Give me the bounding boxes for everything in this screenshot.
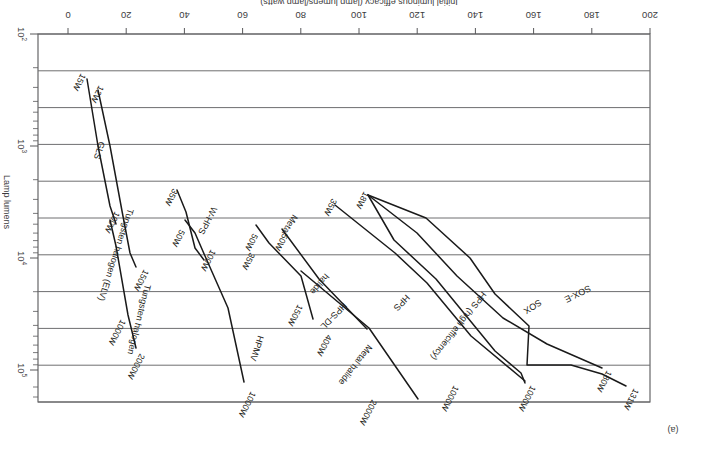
ytick-label-20: 20 <box>121 10 132 21</box>
ytick-label-100: 100 <box>351 10 367 21</box>
figure-page: 200 180 160 140 120 100 80 60 40 20 0 In… <box>0 0 717 461</box>
wattage-1000w-hps: 1000W <box>439 384 461 414</box>
wattage-35w-w-hps: 35W <box>163 187 181 208</box>
wattage-1000w-hpmv: 1000W <box>236 390 258 420</box>
label-sox: SOX <box>522 297 543 316</box>
label-hps-high-efficiency: HPS (high efficiency) <box>429 290 489 362</box>
label-hps-dl: HPS-DL <box>319 301 349 332</box>
curve-sox <box>368 195 602 368</box>
y-axis-title: Initial luminous efficacy (lamp lumens/l… <box>260 0 457 7</box>
efficacy-vs-lumens-chart: 200 180 160 140 120 100 80 60 40 20 0 In… <box>0 0 717 461</box>
series-name-labels: SOX-E SOX HPS (high efficiency) HPS Meta… <box>92 140 593 387</box>
wattage-400w-hps-dl: 400W <box>314 333 334 358</box>
xtick-label-1e4: 104 <box>16 251 28 266</box>
xtick-label-1e2: 102 <box>16 27 28 42</box>
ytick-label-160: 160 <box>526 10 542 21</box>
label-hpmv: HPMV <box>248 334 266 362</box>
wattage-2000w-tungsten-halogen: 2000W <box>125 352 147 382</box>
figure-caption: (a) <box>667 425 678 435</box>
ytick-label-120: 120 <box>409 10 425 21</box>
wattage-15w-gls: 15W <box>71 72 89 93</box>
wattage-131w-sox-e: 131W <box>621 387 641 412</box>
wattage-35w-metal-halide: 35W <box>240 251 258 272</box>
wattage-18w: 18W <box>354 190 372 211</box>
wattage-50w-metal-halide: 50W <box>243 232 261 253</box>
wattage-35w-hps: 35W <box>322 197 340 218</box>
ytick-label-80: 80 <box>296 10 307 21</box>
ytick-label-60: 60 <box>237 10 248 21</box>
lumens-tick-labels: 102 103 104 105 <box>16 27 28 378</box>
wattage-50w-hpmv: 50W <box>170 228 188 249</box>
label-gls: GLS <box>92 140 107 160</box>
ytick-label-180: 180 <box>584 10 600 21</box>
label-hps: HPS <box>392 293 412 313</box>
efficacy-tick-labels: 200 180 160 140 120 100 80 60 40 20 0 <box>65 10 658 21</box>
label-sox-e: SOX-E <box>563 283 593 304</box>
wattage-1000w-hps-he: 1000W <box>516 384 538 414</box>
wattage-1000w-tungsten-halogen: 1000W <box>106 318 128 348</box>
x-axis-title: Lamp lumens <box>2 175 12 230</box>
chart-figure-rotated: 200 180 160 140 120 100 80 60 40 20 0 In… <box>0 0 717 461</box>
wattage-100w-hpmv: 100W <box>198 248 218 273</box>
ytick-label-200: 200 <box>642 10 658 21</box>
lumens-axis-ticks <box>30 34 38 397</box>
curve-hps-he <box>368 195 525 383</box>
ytick-label-40: 40 <box>179 10 190 21</box>
ytick-label-0: 0 <box>65 10 70 21</box>
wattage-150w-metal-halide: 150W <box>285 303 305 328</box>
wattage-labels: 131W 180W 1000W 1000W 2000W 400W 150W 18… <box>71 72 642 428</box>
xtick-label-1e3: 103 <box>16 139 28 154</box>
series-curves <box>87 79 626 399</box>
efficacy-axis-ticks <box>68 28 650 34</box>
label-w-hps: W-HPS <box>196 205 219 236</box>
xtick-label-1e5: 105 <box>16 363 28 378</box>
ytick-label-140: 140 <box>467 10 483 21</box>
